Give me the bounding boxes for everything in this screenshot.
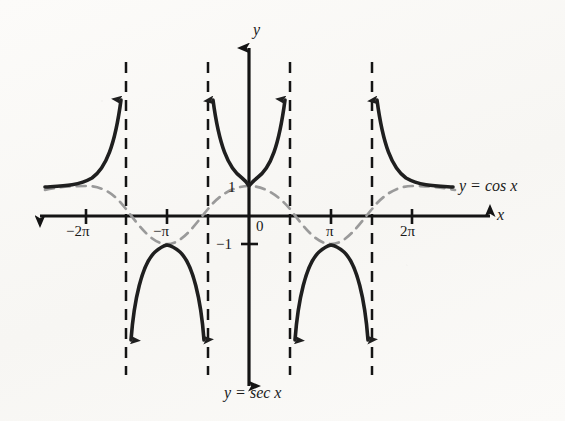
- sec-equation-label: y = sec x: [224, 385, 281, 401]
- sec-cos-plot: [0, 0, 565, 421]
- sec-branch-leftmost: [45, 100, 121, 187]
- sec-branch-left-down: [131, 245, 204, 340]
- x-tick-label-pi: π: [326, 224, 334, 239]
- cos-equation-label: y = cos x: [459, 178, 517, 194]
- y-axis-label: y: [253, 22, 260, 38]
- y-tick-label-neg-one: −1: [216, 237, 232, 252]
- x-tick-label-neg-pi: −π: [153, 224, 169, 239]
- sec-branch-right-down: [295, 245, 368, 340]
- figure-canvas: y x 0 −2π −π π 2π 1 −1 y = cos x y = sec…: [0, 0, 565, 421]
- x-axis-label: x: [497, 207, 504, 223]
- sec-branch-rightmost: [377, 100, 453, 187]
- origin-label: 0: [256, 219, 264, 234]
- x-tick-label-2pi: 2π: [400, 224, 415, 239]
- y-tick-label-one: 1: [228, 180, 236, 195]
- x-tick-label-neg-2pi: −2π: [66, 224, 90, 239]
